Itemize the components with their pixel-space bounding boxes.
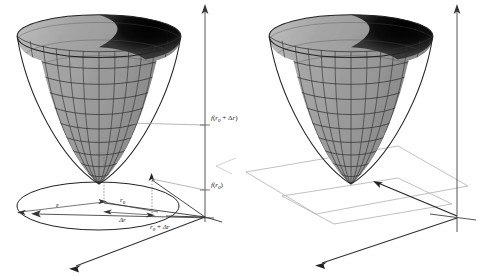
label-r0-plus-dr: r0 + Δr <box>150 223 170 232</box>
right-panel <box>246 4 476 269</box>
depth-axis-arrowhead-right <box>315 262 327 269</box>
depth-axis-line <box>76 217 205 266</box>
decorative-chevron <box>216 158 236 174</box>
secondary-plane-parallelogram <box>282 178 452 224</box>
level-line-f-r0 <box>152 179 205 190</box>
vertex-pointer-line <box>378 183 457 216</box>
projection-arrowhead-r0-plus-dr <box>149 173 155 181</box>
figure-canvas: f(r0 + Δr) f(r0) ε r0 Δr r0 + Δr <box>0 0 488 276</box>
left-panel: f(r0 + Δr) f(r0) ε r0 Δr r0 + Δr <box>17 4 238 272</box>
right-axes <box>430 10 476 232</box>
left-paraboloid-surface <box>17 15 181 184</box>
delta-r-segment <box>106 212 152 215</box>
depth-axis-line-right <box>322 218 457 263</box>
label-r0: r0 <box>120 196 126 205</box>
depth-axis-arrowhead <box>69 265 81 272</box>
diagram-svg: f(r0 + Δr) f(r0) ε r0 Δr r0 + Δr <box>0 0 488 276</box>
label-delta-r: Δr <box>118 216 126 224</box>
label-f-r0: f(r0) <box>211 181 224 190</box>
right-paraboloid-surface <box>269 15 433 184</box>
label-epsilon: ε <box>56 201 59 209</box>
label-f-r0-plus-dr: f(r0 + Δr) <box>211 114 238 123</box>
level-line-f-r0-plus-dr <box>128 123 205 125</box>
epsilon-radius-segment <box>20 202 104 212</box>
